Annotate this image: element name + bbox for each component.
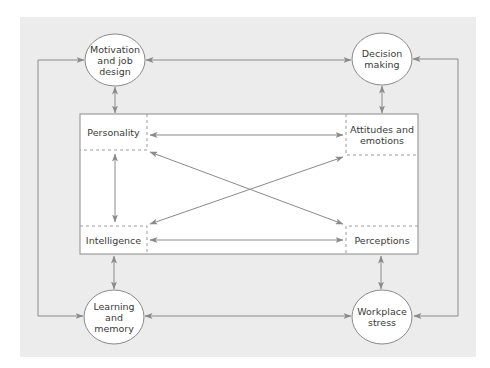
diagram-canvas xyxy=(0,0,490,368)
node-decision-line2: making xyxy=(364,59,399,70)
node-intelligence-label: Intelligence xyxy=(86,235,141,246)
node-personality-label: Personality xyxy=(87,127,139,138)
node-learning-line3: memory xyxy=(94,323,134,334)
node-decision-line1: Decision xyxy=(362,48,402,59)
node-motivation: Motivation and job design xyxy=(85,34,145,86)
node-workplace-line1: Workplace xyxy=(357,306,407,317)
node-perceptions: Perceptions xyxy=(346,226,418,254)
node-attitudes: Attitudes and emotions xyxy=(346,114,418,155)
node-attitudes-line1: Attitudes and xyxy=(350,124,414,135)
node-motivation-line1: Motivation xyxy=(90,44,140,55)
node-learning-line1: Learning xyxy=(93,301,134,312)
node-workplace-line2: stress xyxy=(368,317,396,328)
node-learning-line2: and xyxy=(105,312,123,323)
node-perceptions-label: Perceptions xyxy=(354,235,409,246)
node-workplace: Workplace stress xyxy=(352,290,412,344)
node-motivation-line2: and job xyxy=(97,55,132,66)
node-personality: Personality xyxy=(80,114,147,150)
node-attitudes-line2: emotions xyxy=(360,135,404,146)
node-intelligence: Intelligence xyxy=(80,226,147,254)
node-decision: Decision making xyxy=(352,33,412,85)
node-learning: Learning and memory xyxy=(84,290,144,344)
node-motivation-line3: design xyxy=(99,66,131,77)
